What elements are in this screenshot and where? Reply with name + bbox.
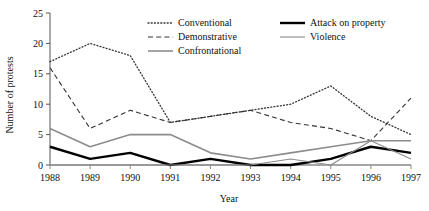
y-tick-label: 25 [33,8,43,19]
x-tick-label: 1993 [241,172,261,183]
y-tick-label: 15 [33,68,43,79]
data-series-group [50,43,411,165]
legend-label-attack-on-property: Attack on property [310,17,386,28]
x-tick-label: 1989 [80,172,100,183]
x-tick-label: 1991 [160,172,180,183]
x-tick-label: 1997 [401,172,421,183]
x-tick-label: 1995 [321,172,341,183]
y-tick-label: 5 [38,129,43,140]
y-axis-title: Number of protests [4,56,15,133]
legend-label-violence: Violence [310,31,346,42]
y-tick-label: 10 [33,99,43,110]
x-tick-label: 1990 [120,172,140,183]
legend-label-conventional: Conventional [178,17,232,28]
x-tick-labels: 1988198919901991199219931994199519961997 [40,165,421,183]
y-tick-labels: 0510152025 [33,8,50,171]
legend-label-demonstrative: Demonstrative [178,31,237,42]
x-tick-label: 1988 [40,172,60,183]
x-tick-label: 1992 [200,172,220,183]
x-tick-label: 1994 [281,172,301,183]
x-axis-title: Year [220,193,239,204]
y-tick-label: 0 [38,160,43,171]
series-line-demonstrative [50,68,411,141]
y-tick-label: 20 [33,38,43,49]
chart-canvas: 0510152025 19881989199019911992199319941… [0,0,429,211]
legend-label-confrontational: Confrontational [178,45,242,56]
chart-legend: ConventionalDemonstrativeConfrontational… [148,17,386,56]
series-line-conventional [50,43,411,134]
protest-trends-line-chart: 0510152025 19881989199019911992199319941… [0,0,429,211]
series-line-confrontational [50,129,411,159]
x-tick-label: 1996 [361,172,381,183]
